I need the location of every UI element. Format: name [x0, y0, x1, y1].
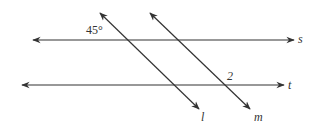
line-t-label: t [288, 78, 292, 92]
angle-2-label: 2 [227, 69, 233, 83]
angle-45-label: 45° [86, 23, 103, 37]
line-l-label: l [201, 110, 205, 124]
line-m [150, 13, 250, 109]
geometry-diagram: 45° 2 s t l m [0, 0, 314, 125]
line-l [100, 13, 199, 109]
line-s-label: s [298, 32, 303, 46]
line-m-label: m [254, 110, 263, 124]
